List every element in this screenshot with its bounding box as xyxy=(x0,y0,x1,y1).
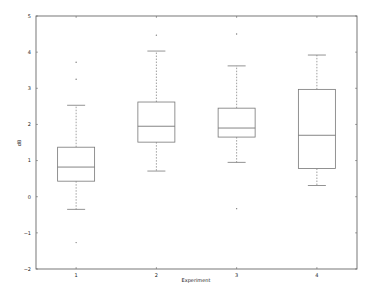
y-axis-label: dB xyxy=(16,139,22,146)
box-series xyxy=(58,33,336,243)
y-tick-label: 0 xyxy=(28,194,31,200)
x-tick-label: 4 xyxy=(315,272,318,278)
y-tick-label: 5 xyxy=(28,13,31,19)
box-3 xyxy=(218,33,255,209)
x-tick-label: 2 xyxy=(155,272,158,278)
y-tick-label: 2 xyxy=(28,121,31,127)
box-2 xyxy=(138,34,175,171)
box-4 xyxy=(298,55,335,185)
box-1 xyxy=(58,62,95,244)
outlier-point xyxy=(75,62,76,63)
y-tick-label: −1 xyxy=(24,230,31,236)
outlier-point xyxy=(75,242,76,243)
y-tick-label: 1 xyxy=(28,157,31,163)
outlier-point xyxy=(75,79,76,80)
x-axis-ticks: 1234 xyxy=(75,16,319,278)
x-tick-label: 3 xyxy=(235,272,238,278)
y-tick-label: 4 xyxy=(28,49,31,55)
outlier-point xyxy=(236,208,237,209)
box-plot-chart: −2−1012345 1234 Experiment dB xyxy=(0,0,374,297)
x-tick-label: 1 xyxy=(75,272,78,278)
outlier-point xyxy=(236,33,237,34)
y-tick-label: 3 xyxy=(28,85,31,91)
y-tick-label: −2 xyxy=(24,266,31,272)
outlier-point xyxy=(156,34,157,35)
x-axis-label: Experiment xyxy=(182,277,211,284)
